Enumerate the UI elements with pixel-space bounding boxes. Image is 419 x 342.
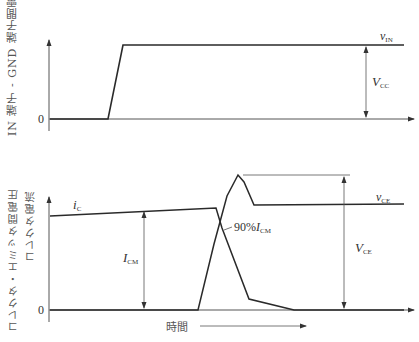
- icm-label: ICM: [122, 250, 139, 266]
- time-axis-label: 時間: [166, 321, 188, 334]
- ninety-percent-icm-label: 90%ICM: [234, 220, 272, 235]
- bottom-y-axis-label-line1: コレクタ・エミッタ間電圧: [5, 172, 20, 332]
- top-zero-label: 0: [38, 112, 44, 126]
- top-y-axis-label: IN 端子 - GND 端子間電圧: [5, 4, 21, 136]
- bottom-zero-label: 0: [38, 303, 44, 317]
- top-panel: 0 vIN VCC: [38, 29, 414, 131]
- bottom-panel: 0 iC vCE ICM VCE 90%ICM 時間: [38, 175, 414, 334]
- vin-label: vIN: [380, 29, 393, 44]
- ninety-percent-leader: [224, 227, 232, 230]
- vce-trace-label: vCE: [376, 190, 390, 205]
- vcc-label: VCC: [372, 74, 390, 90]
- ic-label: iC: [73, 197, 82, 213]
- switching-waveform-diagram: 0 vIN VCC 0 iC vCE ICM VCE 90%ICM 時間: [0, 0, 419, 342]
- vin-trace: [50, 45, 404, 119]
- vce-amplitude-label: VCE: [355, 240, 372, 256]
- bottom-y-axis-label-line2: コレクタ電流: [22, 172, 37, 262]
- ic-trace: [50, 208, 404, 310]
